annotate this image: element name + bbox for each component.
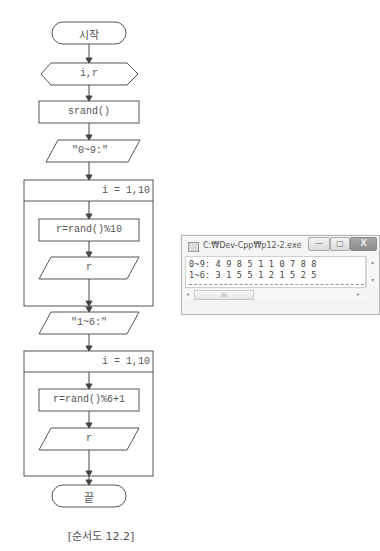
assign1-label: r=rand()%10 — [39, 224, 139, 235]
maximize-button[interactable]: □ — [330, 237, 350, 251]
figure-caption: [순서도 12.2] — [56, 527, 146, 543]
horizontal-scroll-thumb[interactable]: III — [194, 290, 254, 300]
output-line-2: 1~6: 3 1 5 5 1 2 1 5 2 5 — [189, 270, 317, 280]
print2-label: r — [51, 433, 127, 444]
console-titlebar[interactable]: C:₩Dev-Cpp₩p12-2.exe — □ X — [182, 236, 379, 256]
loop2-header: i = 1,10 — [90, 356, 150, 367]
cursor-divider — [189, 284, 364, 285]
output2-label: "1~6:" — [51, 317, 127, 328]
end-label: 끝 — [52, 489, 126, 505]
assign2-label: r=rand()%6+1 — [39, 394, 139, 405]
start-label: 시작 — [52, 26, 126, 42]
loop1-header: i = 1,10 — [90, 185, 150, 196]
console-title: C:₩Dev-Cpp₩p12-2.exe — [203, 241, 301, 250]
close-button[interactable]: X — [350, 237, 377, 251]
minimize-button[interactable]: — — [308, 237, 330, 251]
thumb-grip-icon: III — [221, 291, 226, 298]
console-window: C:₩Dev-Cpp₩p12-2.exe — □ X 0~9: 4 9 8 5 … — [181, 235, 380, 315]
scroll-up-icon[interactable]: ▴ — [367, 258, 378, 265]
declare-label: i,r — [51, 68, 127, 79]
print1-label: r — [51, 262, 127, 273]
scroll-right-icon[interactable]: ▸ — [357, 290, 360, 297]
scroll-left-icon[interactable]: ◂ — [186, 290, 189, 297]
console-output: 0~9: 4 9 8 5 1 1 0 7 8 8 1~6: 3 1 5 5 1 … — [185, 256, 366, 288]
output1-label: "0~9:" — [52, 145, 128, 156]
scroll-down-icon[interactable]: ▾ — [367, 276, 378, 283]
console-app-icon — [188, 242, 199, 252]
horizontal-scrollbar[interactable]: ◂ III ▸ — [185, 289, 366, 300]
srand-label: srand() — [39, 106, 139, 117]
vertical-scrollbar[interactable]: ▴ ▾ — [366, 256, 378, 288]
output-line-1: 0~9: 4 9 8 5 1 1 0 7 8 8 — [189, 259, 317, 269]
